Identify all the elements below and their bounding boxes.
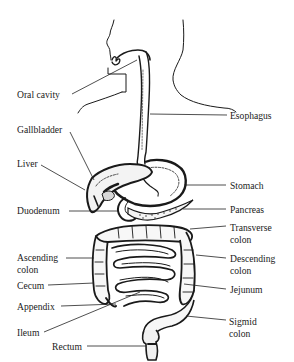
oral-cavity-drawing bbox=[112, 50, 150, 65]
label-liver: Liver bbox=[17, 158, 38, 169]
label-ascending-colon-line2: colon bbox=[17, 264, 38, 275]
label-gallbladder: Gallbladder bbox=[17, 124, 62, 135]
small-intestine-drawing bbox=[112, 244, 175, 306]
label-pancreas: Pancreas bbox=[230, 204, 264, 215]
label-transverse-colon-line1: Transverse bbox=[230, 222, 272, 233]
label-descending-colon-line2: colon bbox=[230, 265, 251, 276]
label-transverse-colon-line2: colon bbox=[230, 234, 251, 245]
label-ascending-colon-line1: Ascending bbox=[17, 252, 58, 263]
label-cecum: Cecum bbox=[17, 280, 44, 291]
label-appendix: Appendix bbox=[17, 301, 55, 312]
label-descending-colon-line1: Descending bbox=[230, 253, 275, 264]
head-outline bbox=[78, 20, 236, 113]
label-sigmoid-colon-line2: colon bbox=[229, 328, 250, 339]
label-esophagus: Esophagus bbox=[230, 110, 272, 121]
label-sigmoid-colon-line1: Sigmid bbox=[229, 316, 257, 327]
esophagus-drawing bbox=[137, 52, 149, 168]
label-oral-cavity: Oral cavity bbox=[17, 89, 60, 100]
label-rectum: Rectum bbox=[52, 341, 82, 352]
gallbladder-drawing bbox=[102, 191, 114, 201]
label-jejunum: Jejunum bbox=[230, 284, 263, 295]
colon-drawing bbox=[93, 225, 195, 340]
rectum-drawing bbox=[143, 330, 159, 360]
pancreas-drawing bbox=[128, 200, 193, 220]
label-duodenum: Duodenum bbox=[17, 205, 60, 216]
label-ileum: Ileum bbox=[17, 327, 39, 338]
label-stomach: Stomach bbox=[230, 180, 264, 191]
